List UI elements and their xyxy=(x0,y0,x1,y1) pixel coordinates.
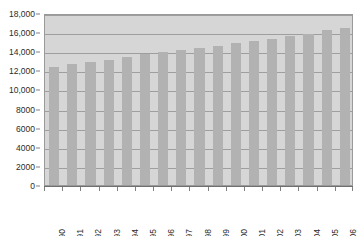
bar xyxy=(322,30,332,185)
bar-chart: 0200040006000800010,00012,00014,00016,00… xyxy=(0,0,361,236)
x-axis: 1990199119921993199419951996199719981999… xyxy=(44,187,353,236)
bar xyxy=(249,41,259,185)
bar xyxy=(213,46,223,186)
y-tick-mark xyxy=(36,186,40,187)
bar xyxy=(67,64,77,185)
x-tick-mark xyxy=(335,187,336,191)
x-tick-label: 2005 xyxy=(330,229,340,236)
x-tick-label: 1994 xyxy=(130,229,140,236)
bar xyxy=(176,50,186,185)
y-tick-mark xyxy=(36,71,40,72)
x-tick-mark xyxy=(117,187,118,191)
x-tick-mark xyxy=(352,187,353,191)
bar xyxy=(158,52,168,185)
x-tick-mark xyxy=(208,187,209,191)
x-tick-mark xyxy=(262,187,263,191)
y-tick-label: 8000 xyxy=(16,105,35,115)
bar xyxy=(49,67,59,185)
x-tick-label: 1990 xyxy=(57,229,67,236)
y-tick-mark xyxy=(36,90,40,91)
y-tick-mark xyxy=(36,52,40,53)
x-tick-mark xyxy=(244,187,245,191)
x-tick-label: 2002 xyxy=(275,229,285,236)
y-tick-label: 6000 xyxy=(16,124,35,134)
x-tick-mark xyxy=(171,187,172,191)
bar xyxy=(140,54,150,185)
x-tick-mark xyxy=(153,187,154,191)
y-tick-mark xyxy=(36,147,40,148)
x-tick-label: 1999 xyxy=(221,229,231,236)
x-tick-mark xyxy=(280,187,281,191)
x-tick-mark xyxy=(80,187,81,191)
y-tick-mark xyxy=(36,128,40,129)
x-tick-label: 2004 xyxy=(312,229,322,236)
plot-area xyxy=(44,14,353,186)
x-tick-label: 1998 xyxy=(203,229,213,236)
bar xyxy=(104,60,114,185)
x-tick-label: 2006 xyxy=(348,229,358,236)
x-tick-label: 1991 xyxy=(75,229,85,236)
x-tick-label: 1993 xyxy=(112,229,122,236)
x-tick-mark xyxy=(62,187,63,191)
bar xyxy=(231,43,241,185)
x-tick-mark xyxy=(298,187,299,191)
y-tick-label: 14,000 xyxy=(9,47,35,57)
bar xyxy=(340,28,350,185)
x-tick-mark xyxy=(44,187,45,191)
y-tick-mark xyxy=(36,33,40,34)
y-tick-label: 0 xyxy=(30,181,35,191)
x-tick-label: 2001 xyxy=(257,229,267,236)
bar xyxy=(303,34,313,185)
y-tick-mark xyxy=(36,109,40,110)
y-tick-mark xyxy=(36,14,40,15)
x-tick-mark xyxy=(226,187,227,191)
bar xyxy=(285,36,295,185)
x-tick-label: 1995 xyxy=(148,229,158,236)
x-tick-mark xyxy=(135,187,136,191)
y-tick-label: 18,000 xyxy=(9,9,35,19)
y-tick-label: 10,000 xyxy=(9,85,35,95)
y-tick-label: 4000 xyxy=(16,143,35,153)
bars-group xyxy=(45,15,352,185)
x-tick-label: 2003 xyxy=(293,229,303,236)
x-tick-label: 1997 xyxy=(184,229,194,236)
y-axis: 0200040006000800010,00012,00014,00016,00… xyxy=(0,14,40,186)
x-tick-label: 2000 xyxy=(239,229,249,236)
x-tick-mark xyxy=(99,187,100,191)
y-tick-label: 16,000 xyxy=(9,28,35,38)
x-tick-label: 1992 xyxy=(93,229,103,236)
y-tick-label: 2000 xyxy=(16,162,35,172)
bar xyxy=(267,39,277,185)
bar xyxy=(122,57,132,185)
y-tick-mark xyxy=(36,166,40,167)
x-tick-label: 1996 xyxy=(166,229,176,236)
y-tick-label: 12,000 xyxy=(9,66,35,76)
x-tick-mark xyxy=(317,187,318,191)
bar xyxy=(194,48,204,185)
x-tick-mark xyxy=(189,187,190,191)
bar xyxy=(85,62,95,185)
